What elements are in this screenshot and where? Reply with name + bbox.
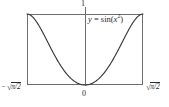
radicand: π/2: [150, 82, 161, 91]
curve-layer: [27, 14, 143, 85]
equation-close-paren: ): [120, 14, 123, 24]
origin-label: 0: [82, 90, 86, 98]
y-max-label: 1: [81, 0, 85, 8]
x-max-label: √π/2: [145, 82, 160, 91]
sqrt-group: √π/2: [145, 82, 160, 91]
equation-function-name: sin: [101, 14, 111, 24]
x-min-label: −√π/2: [1, 82, 21, 91]
curve-sin-x-squared: [27, 14, 143, 85]
sqrt-group: √π/2: [6, 82, 21, 91]
figure-sin-x-squared: 1 y = sin(x2) 0 −√π/2 √π/2: [0, 0, 169, 107]
radicand: π/2: [11, 82, 22, 91]
equation-label: y = sin(x2): [88, 15, 123, 24]
